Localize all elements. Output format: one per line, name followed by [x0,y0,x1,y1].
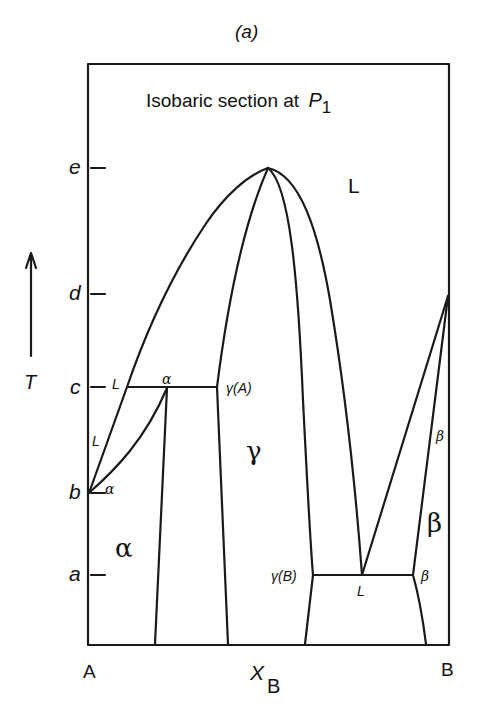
region-beta: β [427,510,442,536]
region-liquid: L [348,175,360,196]
tick-label-b: b [69,481,81,502]
tick-label-d: d [69,282,81,303]
alpha-solvus [155,388,167,644]
tick-label-e: e [69,156,81,177]
gamma-A-boundary [217,168,268,644]
label-c-alpha: α [162,372,171,386]
plot-frame [88,64,449,645]
label-a-gammaB: γ(B) [271,569,297,583]
gamma-solidus-right [268,168,313,575]
region-alpha: α [115,535,133,561]
figure-title: Isobaric section at P1 [146,90,331,110]
label-b-L: L [92,434,100,448]
x-left-label: A [83,662,96,681]
panel-label: (a) [235,22,258,41]
label-a-beta: β [421,569,429,583]
region-gamma: γ [246,438,262,464]
label-c-gammaA: γ(A) [226,381,252,395]
title-variable: P [308,89,321,111]
label-a-L: L [357,584,365,598]
tick-label-a: a [69,563,81,584]
label-d-beta: β [436,429,444,443]
tick-label-c: c [70,376,81,397]
alpha-solidus [90,388,167,492]
x-axis-label: X [250,662,264,683]
label-b-alpha: α [105,482,114,496]
title-subscript: 1 [322,98,331,117]
y-axis-label: T [24,372,36,392]
x-axis-subscript: B [267,676,280,696]
liquidus-right [268,168,362,575]
gamma-B-solvus [305,575,313,644]
liquidus-left [89,168,268,493]
x-right-label: B [441,660,454,679]
beta-solvus [413,575,426,644]
label-c-L: L [112,377,120,391]
title-text: Isobaric section at [146,90,299,111]
